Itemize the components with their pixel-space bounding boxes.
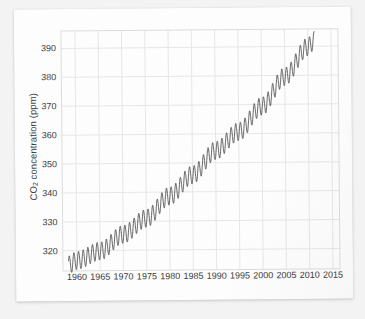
grid-line-horizontal <box>62 191 339 193</box>
x-axis-tick-labels: 1960196519701975198019851990199520002005… <box>16 270 353 289</box>
x-tick-label: 2015 <box>323 270 343 280</box>
y-axis-tick-labels: 320330340350360370380390 <box>14 9 59 301</box>
x-tick-label: 2010 <box>300 270 320 280</box>
grid-line-horizontal <box>63 219 340 221</box>
grid-line-vertical <box>238 30 240 270</box>
scanned-paper-sheet: CO2 concentration (ppm) 3203303403503603… <box>14 7 354 302</box>
grid-line-vertical <box>145 30 147 270</box>
plot-area <box>14 7 354 302</box>
grid-line-horizontal <box>62 104 339 106</box>
grid-line-horizontal <box>61 46 338 48</box>
grid-line-horizontal <box>62 133 339 135</box>
y-tick-label: 380 <box>41 72 56 82</box>
x-tick-label: 1965 <box>90 272 110 282</box>
x-tick-label: 1970 <box>114 271 134 281</box>
grid-line-horizontal <box>62 162 339 164</box>
grid-line-vertical <box>75 31 77 271</box>
grid-line-vertical <box>168 30 170 270</box>
screenshot-root: CO2 concentration (ppm) 3203303403503603… <box>0 0 365 319</box>
grid-line-vertical <box>331 29 333 269</box>
x-tick-label: 1985 <box>183 271 203 281</box>
y-tick-label: 330 <box>43 217 58 227</box>
y-tick-label: 360 <box>42 130 57 140</box>
co2-concentration-chart: CO2 concentration (ppm) 3203303403503603… <box>14 7 354 302</box>
grid-line-vertical <box>308 29 310 269</box>
y-tick-label: 370 <box>42 101 57 111</box>
x-tick-label: 1975 <box>137 271 157 281</box>
x-tick-label: 2000 <box>253 270 273 280</box>
x-tick-label: 2005 <box>276 270 296 280</box>
grid-line-vertical <box>98 31 100 271</box>
grid-line-vertical <box>284 29 286 269</box>
grid-line-vertical <box>261 29 263 269</box>
x-tick-label: 1960 <box>67 272 87 282</box>
grid-line-vertical <box>191 30 193 270</box>
x-tick-label: 1990 <box>207 271 227 281</box>
x-tick-label: 1980 <box>160 271 180 281</box>
y-tick-label: 350 <box>42 159 57 169</box>
y-tick-label: 340 <box>42 188 57 198</box>
y-tick-label: 390 <box>41 43 56 53</box>
y-tick-label: 320 <box>43 246 58 256</box>
grid-line-horizontal <box>63 248 340 250</box>
grid-line-horizontal <box>61 75 338 77</box>
x-tick-label: 1995 <box>230 270 250 280</box>
